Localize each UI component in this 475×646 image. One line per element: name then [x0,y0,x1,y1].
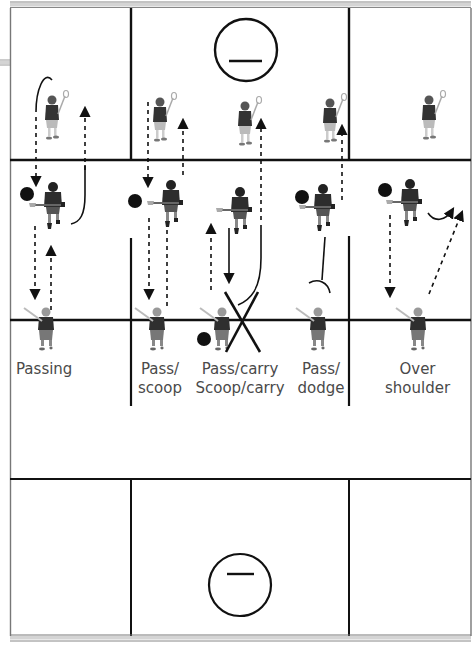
player-icon [323,94,347,143]
player-icon [396,308,426,351]
ball-icon [378,183,392,197]
player-icon [296,308,326,351]
drill-label-pass-scoop: Pass/ scoop [136,360,184,398]
lacrosse-field [0,0,475,646]
players-top-row [45,91,446,146]
player-icon [238,97,262,146]
bottom-border [10,635,471,641]
crease-bottom [209,554,271,616]
drill-paths-over-shoulder [390,209,462,296]
drill-label-passing: Passing [16,360,72,379]
drill-label-pass-dodge: Pass/ dodge [293,360,349,398]
players-middle-row [29,179,422,234]
player-icon [45,91,69,140]
drill-label-over-shoulder: Over shoulder [375,360,460,398]
left-stub [0,60,10,65]
player-icon [216,187,252,234]
player-icon [135,308,165,351]
player-icon [24,308,54,351]
player-icon [153,93,177,142]
ball-icon [20,187,34,201]
crease-top [215,19,277,81]
balls [20,183,392,346]
ball-icon [197,332,211,346]
player-icon [147,180,183,227]
drill-label-pass-carry-scoop-carry: Pass/carry Scoop/carry [190,360,290,398]
top-border [10,2,471,8]
field-lines [10,8,471,636]
ball-icon [295,190,309,204]
player-icon [386,179,422,226]
ball-icon [128,194,142,208]
player-icon [29,182,65,229]
player-icon [422,91,446,140]
players-bottom-row [24,308,426,351]
